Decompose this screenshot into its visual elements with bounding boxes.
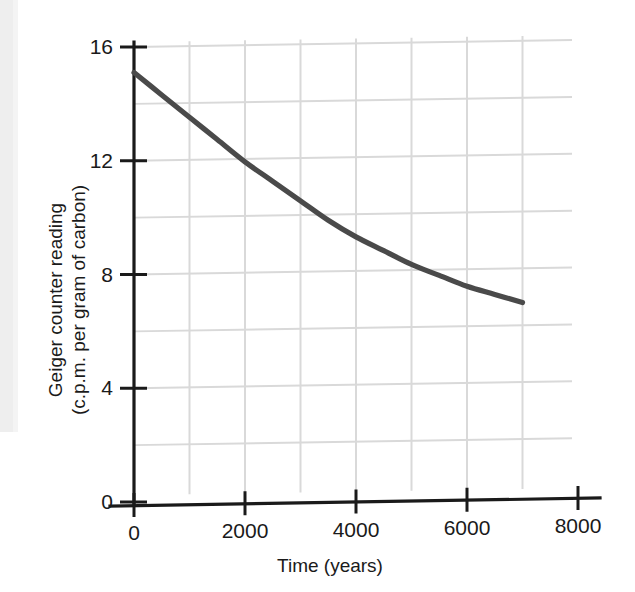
decay-curve bbox=[134, 73, 523, 303]
y-tick-label: 8 bbox=[101, 263, 113, 286]
chart-figure: 0481216 02000400060008000 Time (years) G… bbox=[0, 0, 635, 592]
grid-vertical-lines bbox=[134, 36, 523, 495]
y-axis-title-group: Geiger counter reading (c.p.m. per gram … bbox=[45, 185, 89, 415]
y-tick-label: 16 bbox=[90, 35, 113, 58]
x-tick-label: 4000 bbox=[333, 518, 380, 541]
y-tick-label: 4 bbox=[101, 376, 113, 399]
geiger-decay-plot: 0481216 02000400060008000 Time (years) G… bbox=[0, 0, 635, 592]
grid-horizontal-lines bbox=[134, 40, 572, 445]
y-axis-title-line-1: Geiger counter reading bbox=[45, 203, 66, 397]
x-tick-label: 2000 bbox=[222, 519, 269, 542]
x-tick-label: 6000 bbox=[444, 516, 491, 539]
y-axis-title-line-2: (c.p.m. per gram of carbon) bbox=[68, 185, 89, 415]
y-tick-label: 12 bbox=[90, 149, 113, 172]
y-tick-label: 0 bbox=[101, 490, 113, 513]
x-tick-label: 8000 bbox=[555, 514, 602, 537]
x-axis-ticks: 02000400060008000 bbox=[128, 486, 601, 544]
x-axis-title: Time (years) bbox=[277, 555, 383, 576]
x-tick-label: 0 bbox=[128, 521, 140, 544]
y-axis-ticks: 0481216 bbox=[90, 35, 147, 513]
